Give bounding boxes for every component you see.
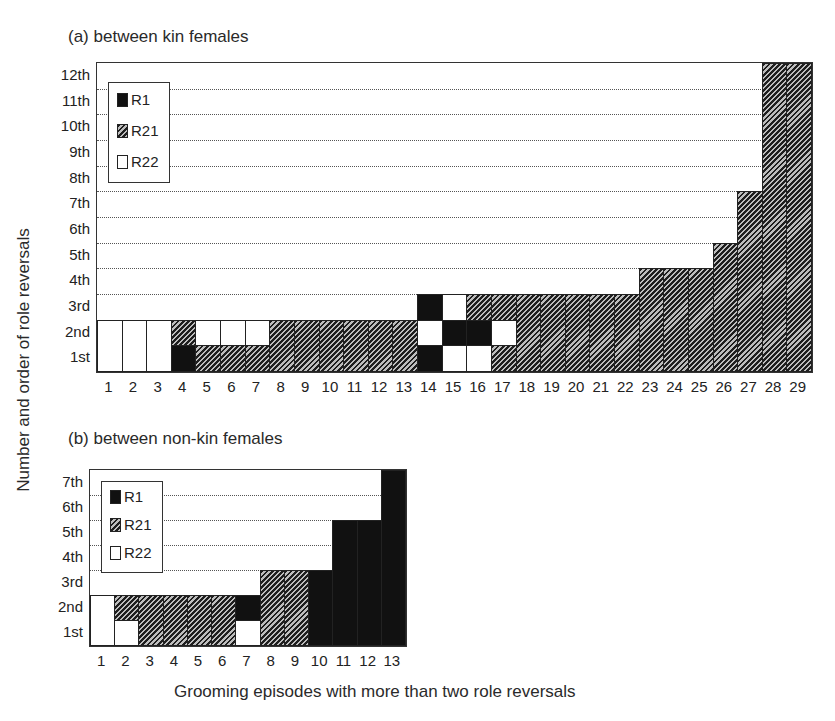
cell-r21 — [466, 294, 492, 321]
x-tick-label: 12 — [367, 378, 391, 395]
cell-r22 — [491, 320, 517, 347]
y-tick-label: 7th — [46, 194, 90, 211]
y-tick-label: 9th — [46, 143, 90, 160]
y-tick-label: 5th — [46, 246, 90, 263]
x-tick-label: 7 — [244, 378, 268, 395]
panel-b-title: (b) between non-kin females — [68, 429, 283, 449]
x-tick-label: 6 — [210, 652, 234, 669]
cell-r22 — [245, 320, 271, 347]
x-tick-label: 9 — [283, 652, 307, 669]
x-tick-label: 3 — [146, 378, 170, 395]
cell-r21 — [187, 595, 212, 646]
gridline — [97, 217, 811, 218]
x-tick-label: 18 — [515, 378, 539, 395]
cell-r21 — [284, 570, 309, 646]
cell-r21 — [343, 320, 369, 372]
cell-r21 — [639, 268, 665, 372]
cell-r22 — [220, 320, 246, 347]
legend-item-r21: R21 — [110, 516, 152, 533]
legend-label: R1 — [131, 91, 150, 108]
legend-label: R1 — [124, 488, 143, 505]
y-tick-label: 1st — [46, 348, 90, 365]
x-tick-label: 7 — [235, 652, 259, 669]
cell-r21 — [269, 320, 295, 372]
cell-r21 — [516, 294, 542, 372]
cell-r22 — [97, 320, 123, 372]
y-tick-label: 12th — [46, 66, 90, 83]
cell-r21 — [163, 595, 188, 646]
x-tick-label: 19 — [539, 378, 563, 395]
cell-r21 — [491, 294, 517, 321]
x-tick-label: 9 — [293, 378, 317, 395]
gridline — [97, 89, 811, 90]
x-tick-label: 21 — [589, 378, 613, 395]
panel-b-legend: R1R21R22 — [101, 481, 163, 573]
cell-r1 — [381, 470, 406, 646]
y-tick-label: 4th — [39, 548, 83, 565]
x-tick-label: 11 — [331, 652, 355, 669]
x-tick-label: 2 — [113, 652, 137, 669]
cell-r22 — [122, 320, 148, 372]
y-tick-label: 2nd — [46, 323, 90, 340]
x-tick-label: 4 — [170, 378, 194, 395]
x-tick-label: 12 — [356, 652, 380, 669]
cell-r21 — [138, 595, 163, 646]
y-tick-label: 4th — [46, 271, 90, 288]
gridline — [97, 166, 811, 167]
legend-item-r21: R21 — [117, 122, 159, 139]
legend-label: R21 — [131, 122, 159, 139]
x-tick-label: 4 — [162, 652, 186, 669]
cell-r22 — [466, 345, 492, 372]
y-tick-label: 8th — [46, 169, 90, 186]
y-tick-label: 5th — [39, 523, 83, 540]
legend-swatch-icon — [110, 546, 121, 560]
x-tick-label: 29 — [786, 378, 810, 395]
cell-r21 — [688, 268, 714, 372]
legend-swatch-icon — [117, 155, 128, 169]
x-tick-label: 3 — [138, 652, 162, 669]
y-tick-label: 3rd — [46, 297, 90, 314]
legend-swatch-icon — [117, 124, 128, 138]
cell-r21 — [368, 320, 394, 372]
gridline — [97, 243, 811, 244]
cell-r21 — [211, 595, 236, 646]
x-tick-label: 1 — [89, 652, 113, 669]
legend-label: R22 — [124, 544, 152, 561]
x-tick-label: 17 — [490, 378, 514, 395]
cell-r1 — [308, 570, 333, 646]
x-tick-label: 11 — [343, 378, 367, 395]
cell-r1 — [357, 520, 382, 646]
cell-r22 — [442, 345, 468, 372]
x-tick-label: 14 — [416, 378, 440, 395]
y-tick-label: 7th — [39, 473, 83, 490]
cell-r21 — [220, 345, 246, 372]
cell-r1 — [417, 294, 443, 321]
legend-label: R21 — [124, 516, 152, 533]
cell-r22 — [442, 294, 468, 321]
x-tick-label: 26 — [712, 378, 736, 395]
cell-r21 — [737, 191, 763, 372]
cell-r21 — [762, 63, 788, 372]
cell-r21 — [171, 320, 197, 347]
panel-a-title: (a) between kin females — [68, 27, 248, 47]
cell-r22 — [146, 320, 172, 372]
x-tick-label: 20 — [564, 378, 588, 395]
cell-r1 — [171, 345, 197, 372]
x-tick-label: 15 — [441, 378, 465, 395]
x-tick-label: 8 — [259, 652, 283, 669]
y-tick-label: 6th — [46, 220, 90, 237]
cell-r1 — [466, 320, 492, 347]
x-tick-label: 28 — [761, 378, 785, 395]
cell-r1 — [332, 520, 357, 646]
legend-swatch-icon — [110, 490, 121, 504]
legend-swatch-icon — [117, 93, 128, 107]
y-tick-label: 6th — [39, 498, 83, 515]
x-tick-label: 8 — [269, 378, 293, 395]
cell-r21 — [565, 294, 591, 372]
y-tick-label: 1st — [39, 623, 83, 640]
gridline — [97, 114, 811, 115]
y-tick-label: 2nd — [39, 598, 83, 615]
x-tick-label: 10 — [307, 652, 331, 669]
y-tick-label: 10th — [46, 117, 90, 134]
cell-r21 — [713, 243, 739, 372]
